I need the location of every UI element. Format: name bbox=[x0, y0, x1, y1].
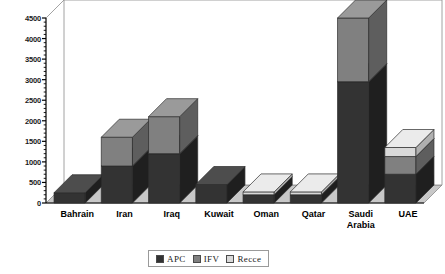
chart-legend: APCIFVRecce bbox=[148, 250, 269, 267]
x-tick-label: Iraq bbox=[163, 209, 180, 220]
legend-label: APC bbox=[167, 254, 186, 264]
bar-group bbox=[101, 119, 150, 203]
y-tick-label: 2500 bbox=[25, 97, 41, 104]
chart-figure: 050010001500200025003000350040004500 Bah… bbox=[0, 0, 445, 274]
y-tick-label: 3000 bbox=[25, 76, 41, 83]
legend-label: IFV bbox=[204, 254, 220, 264]
bar-group bbox=[338, 0, 387, 203]
legend-item: APC bbox=[156, 254, 186, 264]
y-tick-label: 3500 bbox=[25, 56, 41, 63]
x-tick-label: Saudi Arabia bbox=[347, 209, 375, 231]
bar-group bbox=[149, 99, 198, 203]
legend-swatch-apc bbox=[156, 255, 164, 263]
legend-label: Recce bbox=[237, 254, 261, 264]
y-tick-label: 4000 bbox=[25, 35, 41, 42]
x-tick-label: Kuwait bbox=[204, 209, 234, 220]
bar-group bbox=[385, 130, 434, 204]
x-tick-label: Bahrain bbox=[60, 209, 94, 220]
legend-item: IFV bbox=[193, 254, 220, 264]
x-tick-label: Oman bbox=[253, 209, 279, 220]
legend-swatch-ifv bbox=[193, 255, 201, 263]
y-axis: 050010001500200025003000350040004500 bbox=[0, 0, 44, 210]
x-tick-label: Iran bbox=[116, 209, 133, 220]
legend-swatch-recce bbox=[226, 255, 234, 263]
y-tick-label: 1000 bbox=[25, 158, 41, 165]
y-tick-label: 2000 bbox=[25, 117, 41, 124]
y-tick-label: 500 bbox=[29, 179, 41, 186]
y-tick-label: 1500 bbox=[25, 138, 41, 145]
x-tick-label: UAE bbox=[398, 209, 417, 220]
x-axis: BahrainIranIraqKuwaitOmanQatarSaudi Arab… bbox=[0, 205, 445, 241]
legend-item: Recce bbox=[226, 254, 261, 264]
y-tick-label: 4500 bbox=[25, 15, 41, 22]
x-tick-label: Qatar bbox=[302, 209, 326, 220]
